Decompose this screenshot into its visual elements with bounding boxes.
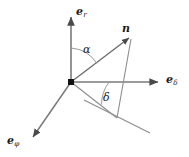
axis-label-e-r-subscript: r: [83, 10, 86, 19]
axis-label-e-r-base: e: [76, 5, 83, 18]
axis-label-e-delta-base: e: [166, 73, 173, 86]
axis-label-e-delta: eδ: [166, 74, 178, 86]
angle-label-delta: δ: [103, 92, 110, 103]
angle-label-alpha: α: [83, 44, 90, 55]
vertical-drop-line: [117, 39, 131, 118]
axis-label-e-delta-subscript: δ: [173, 78, 177, 87]
axis-label-e-phi: eφ: [7, 135, 19, 147]
axis-label-e-r: er: [76, 6, 87, 18]
spherical-unit-vector-diagram: er eδ eφ n α δ: [0, 0, 189, 157]
axis-label-e-phi-subscript: φ: [14, 139, 19, 148]
origin-to-projection-line: [71, 82, 117, 118]
axis-label-e-phi-base: e: [7, 134, 14, 147]
diagram-canvas: [0, 0, 189, 157]
vector-line-n: [71, 38, 129, 82]
vector-label-n: n: [122, 23, 130, 34]
axis-line-e-phi: [33, 82, 71, 137]
origin-point-marker: [68, 79, 74, 85]
